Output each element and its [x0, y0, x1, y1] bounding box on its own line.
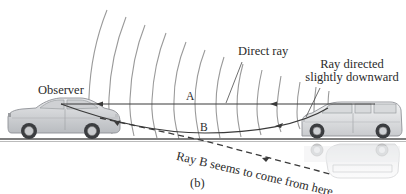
downward-ray-label: Ray directed slightly downward: [300, 58, 404, 84]
point-a-label: A: [186, 90, 194, 103]
panel-label: (b): [190, 177, 205, 190]
direct-ray-leader: [226, 62, 242, 103]
arrowhead-icon: [262, 157, 270, 162]
observer-label: Observer: [38, 84, 84, 97]
point-b-label: B: [200, 121, 208, 134]
mirage-diagram: Observer Direct ray Ray directed slightl…: [0, 0, 406, 194]
source-minivan: [302, 102, 402, 139]
minivan-reflection: [304, 144, 400, 178]
downward-ray-label-line2: slightly downward: [300, 71, 404, 84]
arrowhead-icon: [270, 102, 277, 107]
arrowhead-icon: [275, 123, 283, 128]
direct-ray-label: Direct ray: [238, 45, 288, 58]
wavefronts: [89, 10, 329, 140]
